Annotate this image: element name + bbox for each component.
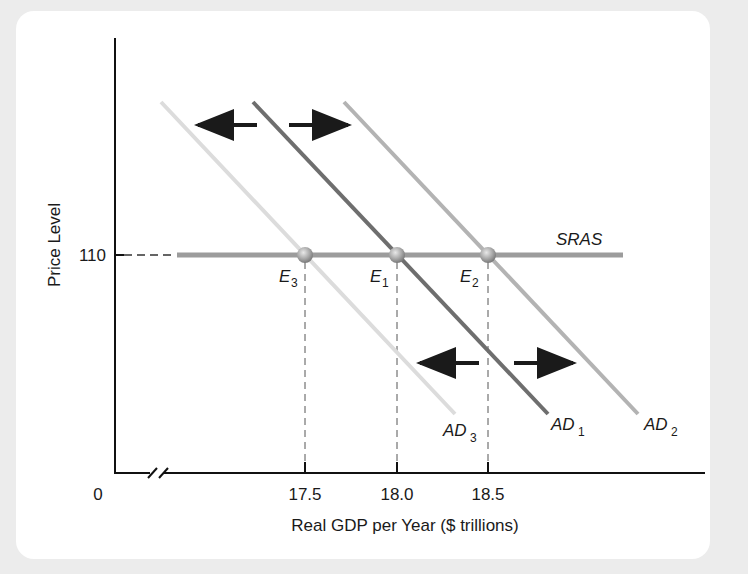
y-axis-label: Price Level bbox=[45, 203, 64, 287]
y-tick-110: 110 bbox=[79, 246, 106, 265]
x-axis-label: Real GDP per Year ($ trillions) bbox=[291, 516, 518, 535]
svg-text:AD: AD bbox=[442, 421, 467, 440]
ad1-label: AD 1 bbox=[550, 415, 585, 439]
svg-text:2: 2 bbox=[671, 425, 678, 439]
ad-sras-chart: Price Level 110 0 17.5 18.0 18.5 Real GD… bbox=[0, 0, 748, 574]
equilibrium-e1 bbox=[389, 247, 405, 263]
x-tick-185: 18.5 bbox=[471, 485, 504, 504]
ad3-label: AD 3 bbox=[442, 421, 477, 445]
x-tick-175: 17.5 bbox=[288, 485, 321, 504]
svg-text:E: E bbox=[279, 267, 291, 286]
svg-text:2: 2 bbox=[472, 276, 479, 290]
svg-text:1: 1 bbox=[578, 425, 585, 439]
svg-text:1: 1 bbox=[382, 276, 389, 290]
svg-text:AD: AD bbox=[643, 415, 668, 434]
e3-label: E 3 bbox=[279, 267, 298, 290]
svg-text:AD: AD bbox=[550, 415, 575, 434]
axis-break-icon bbox=[148, 466, 168, 478]
e2-label: E 2 bbox=[460, 267, 479, 290]
ad2-label: AD 2 bbox=[643, 415, 678, 439]
sras-label: SRAS bbox=[556, 230, 603, 249]
equilibrium-e3 bbox=[297, 247, 313, 263]
svg-text:3: 3 bbox=[470, 431, 477, 445]
svg-text:E: E bbox=[460, 267, 472, 286]
equilibrium-e2 bbox=[480, 247, 496, 263]
x-tick-180: 18.0 bbox=[380, 485, 413, 504]
e1-label: E 1 bbox=[370, 267, 389, 290]
svg-text:E: E bbox=[370, 267, 382, 286]
origin-label: 0 bbox=[93, 485, 102, 504]
svg-text:3: 3 bbox=[291, 276, 298, 290]
